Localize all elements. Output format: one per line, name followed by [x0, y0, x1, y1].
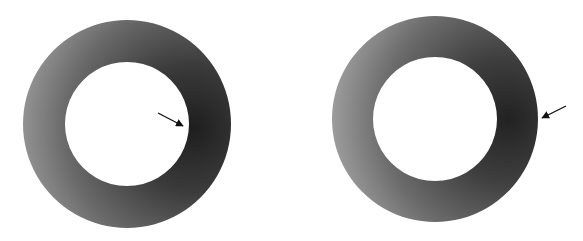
right-ring-panel — [332, 16, 566, 222]
figure-canvas — [0, 0, 583, 241]
right-arrow-icon — [542, 106, 566, 118]
left-arrow-icon — [158, 113, 183, 126]
left-annulus — [23, 20, 231, 228]
right-annulus — [332, 16, 538, 222]
left-ring-panel — [23, 20, 231, 228]
